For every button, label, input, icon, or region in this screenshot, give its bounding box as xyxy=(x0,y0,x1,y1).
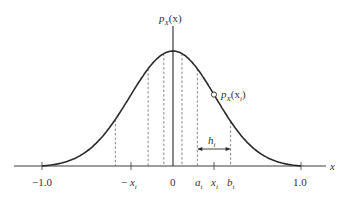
x-axis-label: x xyxy=(329,160,335,172)
sample-point-marker xyxy=(211,92,216,97)
tick-label-neg-xi: − xi xyxy=(121,176,137,191)
tick-label-bi: bi xyxy=(227,176,235,191)
tick-label-neg-one: −1.0 xyxy=(32,176,52,188)
tick-label-ai: ai xyxy=(195,176,203,191)
y-axis-label: pX(x) xyxy=(158,12,182,27)
tick-label-xi: xi xyxy=(210,176,218,191)
pdf-curve xyxy=(42,51,301,166)
interval-width-label: hi xyxy=(208,134,216,149)
pdf-diagram: pX(x) pX(xi) hi x −1.0 − xi 0 ai xi bi 1… xyxy=(0,0,346,199)
curve-point-label: pX(xi) xyxy=(220,88,246,103)
tick-label-one: 1.0 xyxy=(293,176,307,188)
tick-label-zero: 0 xyxy=(170,176,176,188)
